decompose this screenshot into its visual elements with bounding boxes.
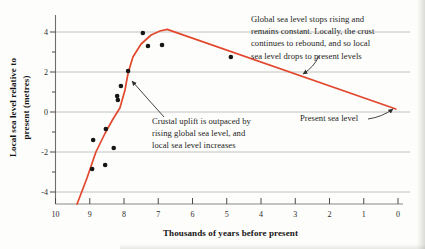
- annotation-crustal-uplift-line: local sea level increases: [152, 139, 251, 151]
- data-point-10: [103, 163, 108, 168]
- data-point-12: [229, 55, 234, 60]
- annotation-rebound-line: remains constant. Locally, the crust: [251, 25, 374, 37]
- data-point-4: [119, 84, 124, 89]
- annotation-rebound: Global sea level stops rising and remain…: [251, 13, 374, 62]
- y-tick-label-2: 2: [44, 68, 48, 77]
- annotation-crustal-uplift: Crustal uplift is outpaced by rising glo…: [152, 115, 251, 152]
- annotation-rebound-line: sea level drops to present levels: [251, 50, 374, 62]
- y-tick-label--2: -2: [41, 148, 48, 157]
- y-tick-label--4: -4: [41, 188, 48, 197]
- x-tick-label-2: 2: [328, 210, 332, 219]
- data-point-0: [141, 31, 146, 36]
- y-axis-title-line: Local sea level relative to: [7, 23, 20, 193]
- data-point-2: [160, 43, 165, 48]
- annotation-present-sea-level: Present sea level: [300, 112, 358, 124]
- y-axis-title: Local sea level relative to present (met…: [7, 23, 32, 193]
- y-tick-label-0: 0: [44, 108, 48, 117]
- x-tick-label-0: 0: [396, 210, 400, 219]
- data-point-9: [111, 146, 116, 151]
- x-tick-label-10: 10: [52, 210, 60, 219]
- sea-level-figure: 109876543210420-2-4 Local sea level rela…: [0, 0, 425, 249]
- x-tick-label-8: 8: [122, 210, 126, 219]
- annotation-rebound-line: continues to rebound, and so local: [251, 37, 374, 49]
- data-point-7: [104, 127, 109, 132]
- x-tick-label-4: 4: [259, 210, 263, 219]
- data-point-3: [126, 69, 131, 74]
- annotation-rebound-line: Global sea level stops rising and: [251, 13, 374, 25]
- y-axis-title-line: present (metres): [19, 23, 32, 193]
- data-point-1: [146, 44, 151, 49]
- annotation-crustal-uplift-line: rising global sea level, and: [152, 127, 251, 139]
- y-tick-label-4: 4: [44, 28, 48, 37]
- x-tick-label-9: 9: [88, 210, 92, 219]
- data-point-5: [115, 94, 120, 99]
- data-point-11: [90, 167, 95, 172]
- annotation-arrow-present: [368, 109, 393, 119]
- x-tick-label-6: 6: [191, 210, 195, 219]
- x-tick-label-3: 3: [293, 210, 297, 219]
- x-tick-label-7: 7: [156, 210, 160, 219]
- x-axis-title: Thousands of years before present: [58, 228, 403, 238]
- x-tick-label-5: 5: [225, 210, 229, 219]
- annotation-crustal-uplift-line: Crustal uplift is outpaced by: [152, 115, 251, 127]
- data-point-6: [116, 98, 121, 103]
- x-tick-label-1: 1: [362, 210, 366, 219]
- data-point-8: [91, 138, 96, 143]
